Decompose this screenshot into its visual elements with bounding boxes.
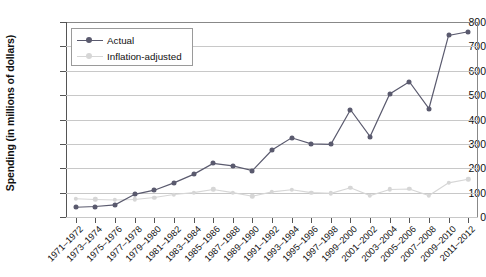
x-axis-tick-mark <box>213 218 214 223</box>
data-point <box>328 142 333 147</box>
data-point <box>250 168 255 173</box>
x-axis-tick-mark <box>468 218 469 223</box>
chart-figure: Spending (in millions of dollars) 010020… <box>0 0 486 277</box>
data-point <box>132 192 137 197</box>
y-axis-title-container: Spending (in millions of dollars) <box>0 0 20 225</box>
legend-item-inflation-adjusted: Inflation-adjusted <box>77 48 182 64</box>
data-point <box>73 205 78 210</box>
data-point <box>446 33 451 38</box>
legend-item-actual: Actual <box>77 32 134 48</box>
x-axis-tick-mark <box>350 218 351 223</box>
x-axis-tick-mark <box>311 218 312 223</box>
x-axis-tick-mark <box>292 218 293 223</box>
data-point <box>152 188 157 193</box>
x-axis-tick-mark <box>76 218 77 223</box>
y-axis-title: Spending (in millions of dollars) <box>4 34 16 191</box>
legend-line-marker-icon <box>77 35 103 45</box>
data-point <box>309 141 314 146</box>
data-point <box>171 180 176 185</box>
data-point <box>426 106 431 111</box>
chart-legend: Actual Inflation-adjusted <box>71 28 193 66</box>
data-point <box>348 107 353 112</box>
legend-label-actual: Actual <box>107 35 134 46</box>
data-point <box>230 163 235 168</box>
x-axis-tick-mark <box>370 218 371 223</box>
data-point <box>270 147 275 152</box>
x-axis-tick-mark <box>233 218 234 223</box>
data-point <box>387 91 392 96</box>
data-point <box>466 29 471 34</box>
x-axis-tick-mark <box>390 218 391 223</box>
x-axis-tick-mark <box>252 218 253 223</box>
data-point <box>191 172 196 177</box>
x-axis-tick-mark <box>409 218 410 223</box>
data-point <box>211 161 216 166</box>
data-point <box>368 134 373 139</box>
legend-label-inflation-adjusted: Inflation-adjusted <box>107 51 182 62</box>
data-point <box>289 135 294 140</box>
x-axis-tick-mark <box>331 218 332 223</box>
x-axis-tick-mark <box>194 218 195 223</box>
x-axis-tick-mark <box>154 218 155 223</box>
x-axis-tick-mark <box>95 218 96 223</box>
data-point <box>93 204 98 209</box>
data-point <box>407 79 412 84</box>
data-point <box>113 202 118 207</box>
x-axis-tick-mark <box>174 218 175 223</box>
x-axis-tick-mark <box>272 218 273 223</box>
x-axis-tick-mark <box>429 218 430 223</box>
x-axis-tick-mark <box>449 218 450 223</box>
x-axis-tick-mark <box>135 218 136 223</box>
x-axis-tick-mark <box>115 218 116 223</box>
legend-line-marker-icon <box>77 51 103 61</box>
